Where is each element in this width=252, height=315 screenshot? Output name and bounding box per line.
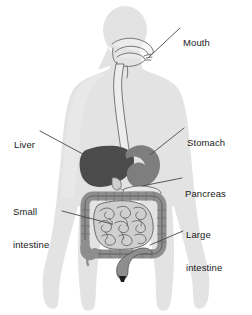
small-intestine-organ xyxy=(94,201,154,250)
mouth-leader-line xyxy=(148,28,180,58)
label-mouth-line-1: Mouth xyxy=(183,37,210,48)
label-stomach-line-1: Stomach xyxy=(187,137,225,148)
label-large-intestine-line-2: intestine xyxy=(186,262,222,273)
label-small-intestine-line-1: Small xyxy=(13,206,49,217)
label-large-intestine: Large intestine xyxy=(186,207,222,295)
label-small-intestine-line-2: intestine xyxy=(13,239,49,250)
label-liver-line-1: Liver xyxy=(14,139,35,150)
label-stomach: Stomach xyxy=(187,115,225,170)
label-large-intestine-line-1: Large xyxy=(186,229,222,240)
label-mouth: Mouth xyxy=(183,15,210,70)
label-liver: Liver xyxy=(14,117,35,172)
digestive-system-diagram: Mouth Stomach Pancreas Large intestine L… xyxy=(0,0,252,315)
label-pancreas-line-1: Pancreas xyxy=(185,188,226,199)
anus-marker xyxy=(119,276,126,282)
label-small-intestine: Small intestine xyxy=(13,184,49,272)
